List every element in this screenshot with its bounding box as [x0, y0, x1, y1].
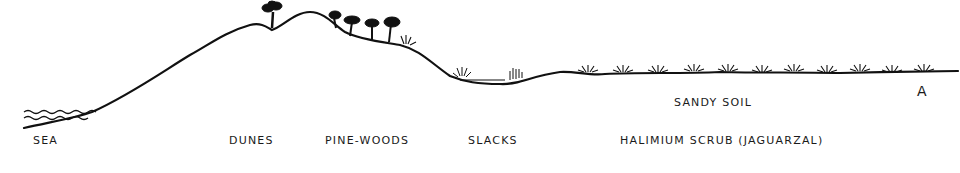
soil-label: SANDY SOIL [674, 96, 752, 109]
halimium-shrubs-icon [578, 64, 934, 72]
coastal-profile-diagram [0, 0, 960, 173]
shrub-icon [401, 35, 416, 45]
endpoint-label: A [917, 83, 928, 99]
zone-label-slacks: SLACKS [468, 134, 518, 147]
reeds-icon [453, 67, 522, 80]
zone-label-scrub: HALIMIUM SCRUB (JAGUARZAL) [620, 134, 823, 147]
pine-tree-icon [262, 1, 282, 28]
zone-label-dunes: DUNES [229, 134, 274, 147]
pine-woods-trees-icon [329, 11, 400, 42]
zone-label-sea: SEA [33, 134, 58, 147]
zone-label-pine-woods: PINE-WOODS [325, 134, 409, 147]
